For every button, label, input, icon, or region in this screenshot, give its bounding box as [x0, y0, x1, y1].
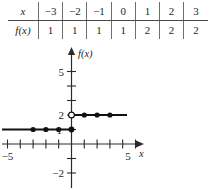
y-tick-label-1: 1: [57, 124, 63, 136]
table-header-x: x: [8, 2, 39, 21]
table-cell-x-4: 1: [135, 2, 159, 21]
y-axis-arrow: [68, 47, 75, 55]
table-cell-x-0: −3: [39, 2, 63, 21]
table-row: f(x) 1 1 1 1 2 2 2: [8, 21, 208, 40]
table-cell-x-3: 0: [111, 2, 135, 21]
table-header-fx: f(x): [8, 21, 39, 40]
table-cell-fx-4: 2: [135, 21, 159, 40]
x-tick-label-5: 5: [125, 150, 131, 162]
table-cell-fx-6: 2: [184, 21, 208, 40]
function-graph: 1 2 5 −2 −5 5 f(x) x: [0, 45, 216, 190]
data-point-neg2-1: [43, 127, 48, 132]
table-cell-x-1: −2: [63, 2, 87, 21]
table-cell-fx-3: 1: [111, 21, 135, 40]
table-cell-fx-2: 1: [87, 21, 111, 40]
x-axis-label: x: [138, 148, 144, 159]
data-point-0-2-open-endpoint: [69, 112, 75, 118]
ray-upper-y2: [69, 112, 127, 118]
data-point-0-1-closed-endpoint: [69, 127, 75, 133]
x-axis-arrow: [136, 140, 144, 147]
data-point-1-2: [82, 112, 87, 117]
table-cell-fx-0: 1: [39, 21, 63, 40]
data-point-neg3-1: [30, 127, 35, 132]
table-cell-fx-5: 2: [160, 21, 184, 40]
table-cell-x-5: 2: [160, 2, 184, 21]
math-figure: x −3 −2 −1 0 1 2 3 f(x) 1 1 1 1 2 2 2: [0, 0, 216, 190]
ray-lower-y1: [2, 127, 74, 133]
table-cell-x-2: −1: [87, 2, 111, 21]
x-tick-label-neg5: −5: [2, 150, 14, 162]
y-tick-label-2: 2: [59, 109, 65, 121]
y-tick-label-5: 5: [59, 66, 65, 78]
table-of-values: x −3 −2 −1 0 1 2 3 f(x) 1 1 1 1 2 2 2: [8, 2, 208, 39]
table-cell-x-6: 3: [184, 2, 208, 21]
table-row: x −3 −2 −1 0 1 2 3: [8, 2, 208, 21]
value-table: x −3 −2 −1 0 1 2 3 f(x) 1 1 1 1 2 2 2: [8, 2, 208, 39]
table-cell-fx-1: 1: [63, 21, 87, 40]
y-axis-label: f(x): [78, 48, 93, 60]
data-point-2-2: [95, 112, 100, 117]
y-tick-label-neg2: −2: [52, 167, 64, 179]
data-point-3-2: [107, 112, 112, 117]
